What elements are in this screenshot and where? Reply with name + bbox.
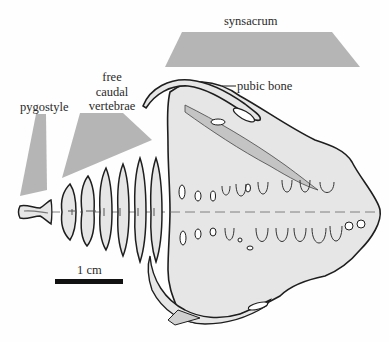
- label-pygostyle: pygostyle: [20, 100, 69, 114]
- scale-bar-label: 1 cm: [77, 263, 102, 277]
- vertebra-6: [151, 158, 162, 262]
- free-caudal-vertebrae: [61, 158, 162, 262]
- synsacrum-marker: [165, 32, 360, 67]
- vertebra-3: [100, 168, 112, 250]
- label-pubic-bone: pubic bone: [237, 79, 292, 93]
- vertebra-5: [135, 158, 146, 262]
- vertebra-1: [61, 184, 76, 240]
- foramen-small: [211, 119, 225, 125]
- label-vertebrae: vertebrae: [77, 99, 147, 113]
- figure: synsacrum pubic bone free caudal vertebr…: [0, 0, 389, 342]
- label-caudal: caudal: [82, 85, 142, 99]
- label-free: free: [94, 70, 130, 84]
- scale-bar: [55, 279, 123, 284]
- pygostyle-bone: [19, 200, 52, 224]
- vertebra-4: [118, 164, 129, 256]
- skeleton-illustration: [0, 0, 389, 342]
- label-synsacrum: synsacrum: [224, 14, 277, 28]
- pygostyle-marker: [20, 114, 47, 196]
